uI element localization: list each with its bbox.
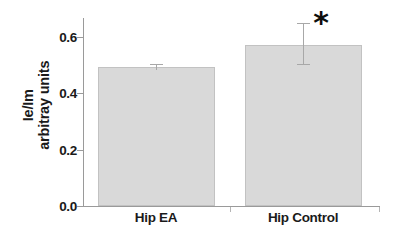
y-tick-label-0.6: 0.6 [37, 30, 77, 45]
x-tick-mark-right [379, 207, 380, 212]
x-tick-mark-middle [230, 207, 231, 212]
y-axis-tick-labels: 0.6 0.4 0.2 0.0 [33, 0, 77, 237]
y-tick-label-0.4: 0.4 [37, 86, 77, 101]
error-bar-cap-top-hip-control [297, 23, 310, 24]
y-tick-mark-0.6 [77, 37, 84, 38]
error-bar-cap-top-hip-ea [150, 64, 163, 65]
error-bar-stem-hip-control [303, 23, 304, 65]
error-bar-cap-bottom-hip-control [297, 64, 310, 65]
bar-hip-ea [98, 67, 215, 206]
bar-hip-control [245, 45, 362, 206]
y-tick-mark-0.0 [77, 206, 84, 207]
x-axis-line [83, 206, 380, 207]
y-tick-mark-0.4 [77, 93, 84, 94]
x-axis-label-hip-ea: Hip EA [135, 210, 177, 225]
significance-asterisk: * [313, 8, 329, 38]
y-tick-label-0.0: 0.0 [37, 199, 77, 214]
y-tick-label-0.2: 0.2 [37, 143, 77, 158]
bar-chart-figure: Ie/Im arbitray units 0.6 0.4 0.2 0.0 * H… [0, 0, 394, 237]
x-axis-label-hip-control: Hip Control [268, 210, 338, 225]
y-axis-line [83, 18, 84, 207]
y-tick-mark-0.2 [77, 150, 84, 151]
